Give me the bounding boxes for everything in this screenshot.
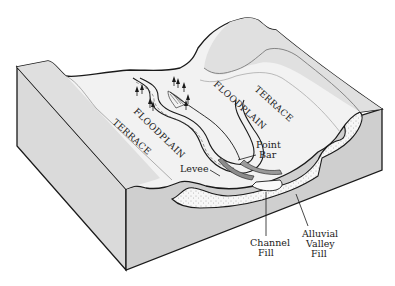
label-levee: Levee bbox=[180, 163, 209, 174]
label-alluvial-3: Fill bbox=[311, 248, 327, 259]
river-valley-block-diagram: TERRACE FLOODPLAIN FLOODPLAIN TERRACE Le… bbox=[0, 0, 395, 286]
label-point-bar-2: Bar bbox=[259, 149, 277, 160]
label-channel-fill-2: Fill bbox=[258, 247, 274, 258]
